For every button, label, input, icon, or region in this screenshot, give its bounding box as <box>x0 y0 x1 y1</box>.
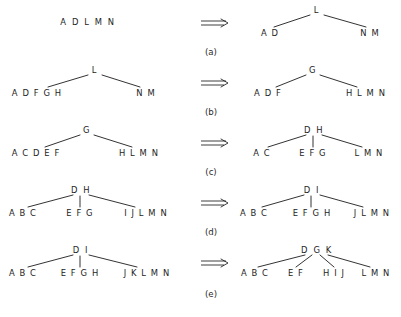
row-d-left-root-label: D H <box>71 185 91 195</box>
row-c-right-child-0-label: A C <box>253 148 271 158</box>
row-e-right-child-0-label: A B C <box>241 268 269 278</box>
row-d-right-root-label: D I <box>304 185 320 195</box>
row-e-left-child-0-label: A B C <box>9 268 37 278</box>
row-c-left-tree: G A C D E F H L M N <box>12 125 159 158</box>
row-b-caption: (b) <box>205 107 217 117</box>
row-b-left-tree: L A D F G H N M <box>12 65 156 98</box>
row-b: L A D F G H N M G A D F H L M N (b) <box>12 65 386 117</box>
row-c-caption: (c) <box>205 167 216 177</box>
row-d-arrow <box>201 199 228 207</box>
row-c-right-root-label: D H <box>304 125 324 135</box>
row-a-right-child-1-label: N M <box>360 28 379 38</box>
row-a-right-root-label: L <box>314 5 320 15</box>
row-c-left-child-0-label: A C D E F <box>12 148 61 158</box>
row-e-right-root-label: D G K <box>301 245 333 255</box>
row-a-left-flat: A D L M N <box>60 17 115 27</box>
row-b-left-child-1-label: N M <box>136 88 155 98</box>
row-e-right-tree: D G K A B C E F H I J L M N <box>241 245 391 278</box>
row-d-left-child-0-label: A B C <box>9 208 37 218</box>
row-e: D I A B C E F G H J K L M N D G K A B C … <box>9 245 391 299</box>
row-e-arrow <box>201 259 228 267</box>
row-b-left-root-label: L <box>92 65 98 75</box>
row-c-arrow <box>201 139 228 147</box>
row-d-right-child-1-label: E F G H <box>293 208 332 218</box>
row-d: D H A B C E F G I J L M N D I A B C E F … <box>9 185 390 237</box>
row-e-right-child-3-label: L M N <box>362 268 391 278</box>
row-c-left-root-label: G <box>83 125 91 135</box>
row-e-caption: (e) <box>205 289 217 299</box>
row-a-arrow <box>201 19 228 27</box>
row-c-left-child-1-label: H L M N <box>119 148 159 158</box>
row-a: A D L M N L A D N M (a) <box>60 5 379 57</box>
row-d-caption: (d) <box>205 227 217 237</box>
row-a-right-child-0-label: A D <box>261 28 279 38</box>
row-b-right-child-0-label: A D F <box>254 88 282 98</box>
diagram-canvas: A D L M N L A D N M (a) <box>0 0 401 317</box>
row-c-right-tree: D H A C E F G L M N <box>253 125 383 158</box>
row-b-right-child-1-label: H L M N <box>346 88 386 98</box>
row-c-right-child-1-label: E F G <box>299 148 326 158</box>
row-e-right-child-2-label: H I J <box>323 268 345 278</box>
row-c: G A C D E F H L M N D H A C E F G L M N <box>12 125 384 177</box>
row-b-right-root-label: G <box>309 65 317 75</box>
row-c-right-child-2-label: L M N <box>355 148 384 158</box>
row-a-left-root-label: A D L M N <box>60 17 115 27</box>
row-b-left-child-0-label: A D F G H <box>12 88 62 98</box>
row-d-left-child-2-label: I J L M N <box>124 208 168 218</box>
row-e-right-child-1-label: E F <box>288 268 304 278</box>
row-a-right-tree: L A D N M <box>261 5 380 38</box>
row-e-left-tree: D I A B C E F G H J K L M N <box>9 245 170 278</box>
row-d-right-child-0-label: A B C <box>240 208 268 218</box>
tree-transformation-figure: A D L M N L A D N M (a) <box>0 0 401 317</box>
row-b-arrow <box>201 79 228 87</box>
row-d-right-tree: D I A B C E F G H J L M N <box>240 185 390 218</box>
row-d-left-child-1-label: E F G <box>66 208 93 218</box>
row-e-left-root-label: D I <box>73 245 89 255</box>
row-e-left-child-2-label: J K L M N <box>123 268 171 278</box>
row-d-left-tree: D H A B C E F G I J L M N <box>9 185 168 218</box>
row-e-left-child-1-label: E F G H <box>61 268 100 278</box>
row-d-right-child-2-label: J L M N <box>353 208 390 218</box>
row-a-caption: (a) <box>205 47 217 57</box>
row-b-right-tree: G A D F H L M N <box>254 65 386 98</box>
